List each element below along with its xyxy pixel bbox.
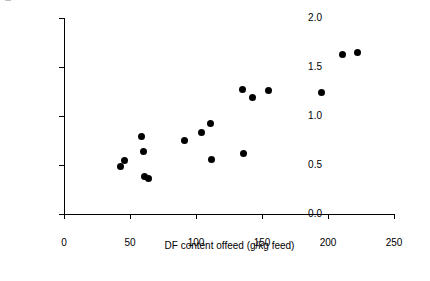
y-axis-title: mol SCFA produced per kg feed [2, 0, 13, 30]
data-point [318, 89, 325, 96]
y-tick-label-3: 1.5 [288, 62, 322, 72]
y-tick-label-0: 0.0 [288, 209, 322, 219]
data-point [117, 163, 124, 170]
data-point [140, 148, 147, 155]
data-point [181, 137, 188, 144]
x-axis-line [64, 214, 395, 215]
data-point [208, 156, 215, 163]
data-point [198, 129, 205, 136]
data-point [239, 86, 246, 93]
y-axis-title-container: mol SCFA produced per kg feed [10, 18, 24, 214]
x-tick-5 [394, 214, 395, 219]
x-tick-4 [328, 214, 329, 219]
x-tick-0 [64, 214, 65, 219]
x-tick-2 [196, 214, 197, 219]
x-tick-3 [262, 214, 263, 219]
y-tick-1 [59, 165, 64, 166]
data-point [240, 150, 247, 157]
y-tick-label-4: 2.0 [288, 13, 322, 23]
y-tick-label-2: 1.0 [288, 111, 322, 121]
data-point [339, 51, 346, 58]
y-tick-4 [59, 18, 64, 19]
y-tick-2 [59, 116, 64, 117]
data-point [138, 133, 145, 140]
data-point [121, 157, 128, 164]
data-point [207, 120, 214, 127]
y-tick-label-1: 0.5 [288, 160, 322, 170]
x-tick-1 [130, 214, 131, 219]
y-tick-3 [59, 67, 64, 68]
data-point [265, 87, 272, 94]
plot-area: 2.0 1.5 1.0 0.5 0.0 0 50 100 150 200 250 [64, 18, 394, 214]
data-point [354, 49, 361, 56]
data-point [249, 94, 256, 101]
data-point [145, 175, 152, 182]
x-axis-title: DF content offeed (g/kg feed) [64, 240, 395, 251]
scatter-chart: mol SCFA produced per kg feed 2.0 1.5 1.… [0, 0, 430, 281]
